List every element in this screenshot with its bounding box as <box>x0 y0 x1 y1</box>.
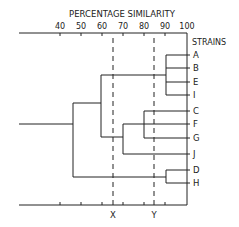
tick-label-80: 80 <box>139 22 149 31</box>
strain-f: F <box>193 119 198 129</box>
tick-label-50: 50 <box>76 22 86 31</box>
tick-label-60: 60 <box>97 22 107 31</box>
tick-label-100: 100 <box>179 22 194 31</box>
tick-label-90: 90 <box>160 22 170 31</box>
strain-d: D <box>193 165 200 175</box>
strain-h: H <box>193 178 199 188</box>
strain-e: E <box>193 77 198 87</box>
strain-labels: A B E I C F G J D H <box>192 50 200 188</box>
tick-label-40: 40 <box>55 22 65 31</box>
tick-labels: 40 50 60 70 80 90 100 <box>55 22 195 31</box>
cut-label-y: Y <box>150 210 157 220</box>
strain-b: B <box>193 63 199 73</box>
cut-label-x: X <box>110 210 116 220</box>
strain-j: J <box>192 149 196 159</box>
axis-title: PERCENTAGE SIMILARITY <box>69 9 176 19</box>
strain-a: A <box>193 50 199 60</box>
strain-c: C <box>193 106 199 116</box>
tick-label-70: 70 <box>118 22 128 31</box>
strains-label: STRAINS <box>192 38 226 47</box>
dendrogram: PERCENTAGE SIMILARITY 40 50 60 70 80 90 … <box>0 0 239 227</box>
strain-g: G <box>193 133 200 143</box>
leaf-branches <box>123 55 190 183</box>
strain-i: I <box>193 90 196 100</box>
